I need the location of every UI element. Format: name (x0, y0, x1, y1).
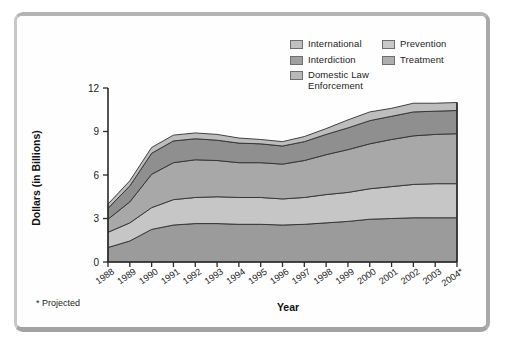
legend-column-left: International Interdiction Domestic Law … (290, 38, 369, 96)
legend-label-prevention: Prevention (400, 38, 446, 49)
figure-root: International Interdiction Domestic Law … (0, 0, 514, 350)
legend-item: Domestic Law Enforcement (290, 69, 369, 93)
legend-swatch-prevention (382, 40, 395, 49)
legend-item: Interdiction (290, 54, 369, 67)
legend-label-international: International (308, 38, 362, 49)
legend-swatch-interdiction (290, 56, 303, 65)
chart-legend: International Interdiction Domestic Law … (276, 38, 476, 90)
legend-swatch-domestic-law-enforcement (290, 71, 303, 80)
legend-item: Treatment (382, 54, 446, 67)
legend-label-interdiction: Interdiction (308, 54, 356, 65)
legend-item: International (290, 38, 369, 51)
legend-label-treatment: Treatment (400, 54, 444, 65)
footnote-projected: * Projected (36, 298, 80, 308)
legend-item: Prevention (382, 38, 446, 51)
legend-label-domestic-law-enforcement: Domestic Law Enforcement (308, 69, 369, 91)
legend-swatch-treatment (382, 56, 395, 65)
legend-swatch-international (290, 40, 303, 49)
legend-column-right: Prevention Treatment (382, 38, 446, 69)
